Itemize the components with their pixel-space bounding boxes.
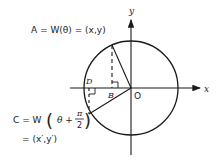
- y-axis-label: y: [128, 6, 135, 16]
- right-angle-d: [89, 88, 95, 94]
- equation-a: A = W(θ) = (x,y): [31, 25, 106, 35]
- point-b-label: B: [107, 91, 114, 100]
- point-d-label: D: [85, 77, 93, 86]
- equation-c-two: 2: [77, 121, 82, 130]
- equation-c-pi: π: [76, 109, 83, 118]
- equation-c-prefix: C = W: [13, 115, 42, 125]
- x-axis-label: x: [204, 84, 209, 94]
- equation-c-open-paren: (: [46, 110, 53, 131]
- equation-c-result: = (x′,y′): [22, 134, 57, 144]
- unit-circle-diagram: x y O B D A = W(θ) = (x,y) C = W ( θ + π…: [0, 0, 218, 160]
- right-angle-a: [112, 82, 118, 88]
- origin-label: O: [134, 91, 141, 101]
- equation-c-close-paren: ): [84, 110, 91, 131]
- equation-c-theta: θ +: [57, 115, 73, 125]
